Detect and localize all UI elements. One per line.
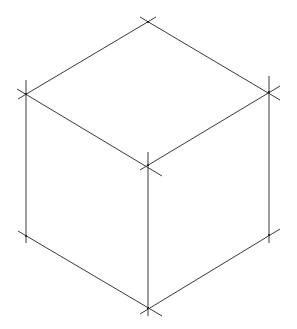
- isometric-cube-diagram: [0, 0, 297, 329]
- front-right-top-edge: [140, 86, 280, 170]
- vertex-left-bottom: [25, 235, 27, 237]
- bottom-left-edge: [18, 231, 162, 316]
- vertex-top: [147, 21, 149, 23]
- vertex-right-bottom: [268, 234, 270, 236]
- top-right-edge: [140, 17, 280, 100]
- vertex-center: [147, 164, 149, 166]
- top-left-edge: [18, 17, 156, 99]
- bottom-right-edge: [140, 229, 280, 314]
- vertex-left-top: [25, 93, 27, 95]
- vertex-right-top: [268, 91, 270, 93]
- front-left-top-edge: [17, 89, 162, 176]
- cube-drawing: [0, 0, 297, 329]
- vertex-bottom: [147, 307, 149, 309]
